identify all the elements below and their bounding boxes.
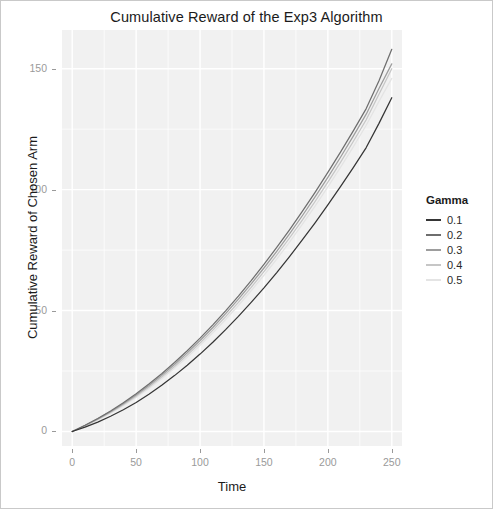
x-tick-mark bbox=[264, 449, 265, 453]
chart-figure: Cumulative Reward of the Exp3 Algorithm … bbox=[0, 0, 493, 509]
legend-item-0-3[interactable]: 0.3 bbox=[425, 242, 487, 257]
legend-line-swatch-icon bbox=[425, 229, 442, 240]
legend-item-label: 0.2 bbox=[447, 229, 462, 241]
legend-item-label: 0.3 bbox=[447, 244, 462, 256]
legend-line-swatch-icon bbox=[425, 244, 442, 255]
legend: Gamma 0.10.20.30.40.5 bbox=[425, 194, 487, 287]
legend-line-swatch-icon bbox=[425, 259, 442, 270]
legend-line-swatch-icon bbox=[425, 214, 442, 225]
legend-item-label: 0.5 bbox=[447, 274, 462, 286]
y-tick-mark bbox=[52, 69, 56, 70]
x-tick-label: 250 bbox=[372, 456, 412, 468]
y-axis-title: Cumulative Reward of Chosen Arm bbox=[25, 30, 40, 446]
data-lines bbox=[62, 30, 402, 446]
legend-item-label: 0.4 bbox=[447, 259, 462, 271]
x-axis-title: Time bbox=[62, 479, 402, 494]
x-tick-label: 150 bbox=[244, 456, 284, 468]
legend-rows: 0.10.20.30.40.5 bbox=[425, 212, 487, 287]
y-tick-mark bbox=[52, 190, 56, 191]
legend-item-0-1[interactable]: 0.1 bbox=[425, 212, 487, 227]
x-tick-label: 100 bbox=[180, 456, 220, 468]
x-tick-mark bbox=[136, 449, 137, 453]
x-tick-label: 50 bbox=[116, 456, 156, 468]
legend-item-0-2[interactable]: 0.2 bbox=[425, 227, 487, 242]
x-tick-mark bbox=[200, 449, 201, 453]
x-tick-label: 0 bbox=[52, 456, 92, 468]
y-tick-mark bbox=[52, 311, 56, 312]
y-tick-mark bbox=[52, 431, 56, 432]
x-tick-label: 200 bbox=[308, 456, 348, 468]
legend-title: Gamma bbox=[426, 194, 487, 206]
legend-line-swatch-icon bbox=[425, 274, 442, 285]
legend-item-label: 0.1 bbox=[447, 214, 462, 226]
legend-item-0-4[interactable]: 0.4 bbox=[425, 257, 487, 272]
chart-title: Cumulative Reward of the Exp3 Algorithm bbox=[1, 9, 492, 25]
x-tick-mark bbox=[72, 449, 73, 453]
x-tick-mark bbox=[392, 449, 393, 453]
plot-panel bbox=[62, 30, 402, 446]
legend-item-0-5[interactable]: 0.5 bbox=[425, 272, 487, 287]
x-tick-mark bbox=[328, 449, 329, 453]
